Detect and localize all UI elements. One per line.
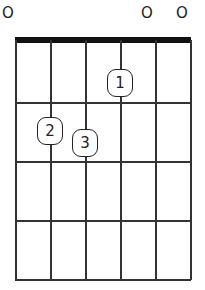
fret-line-4 bbox=[15, 279, 191, 281]
open-string-marker-1: O bbox=[0, 4, 16, 22]
finger-marker-1: 1 bbox=[107, 69, 133, 97]
open-string-marker-5: O bbox=[139, 4, 155, 22]
finger-marker-2: 2 bbox=[37, 117, 63, 145]
nut bbox=[15, 37, 191, 43]
string-2 bbox=[50, 40, 52, 280]
string-1 bbox=[15, 40, 17, 280]
fret-line-2 bbox=[15, 161, 191, 163]
fret-line-1 bbox=[15, 102, 191, 104]
string-3 bbox=[85, 40, 87, 280]
fret-line-3 bbox=[15, 220, 191, 222]
open-string-marker-6: O bbox=[174, 4, 190, 22]
string-5 bbox=[155, 40, 157, 280]
finger-marker-3: 3 bbox=[72, 129, 98, 157]
string-6 bbox=[190, 40, 192, 280]
